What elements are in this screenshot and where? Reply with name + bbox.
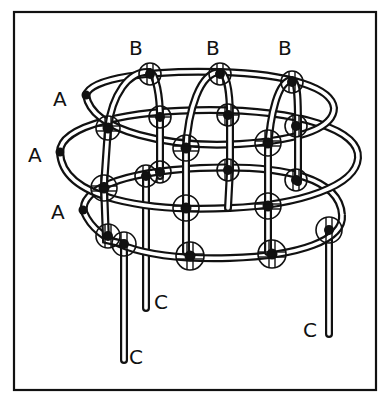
label-a-1: A: [53, 87, 67, 111]
wire-frame-diagram: B B B A A A C C C: [0, 0, 391, 404]
label-b-1: B: [129, 36, 143, 60]
loops-b: [104, 72, 298, 252]
label-a-2: A: [28, 143, 42, 167]
label-c-3: C: [303, 318, 317, 342]
label-c-2: C: [129, 345, 143, 369]
label-c-1: C: [154, 290, 168, 314]
label-a-3: A: [51, 200, 65, 224]
label-b-2: B: [206, 36, 220, 60]
label-b-3: B: [278, 36, 292, 60]
